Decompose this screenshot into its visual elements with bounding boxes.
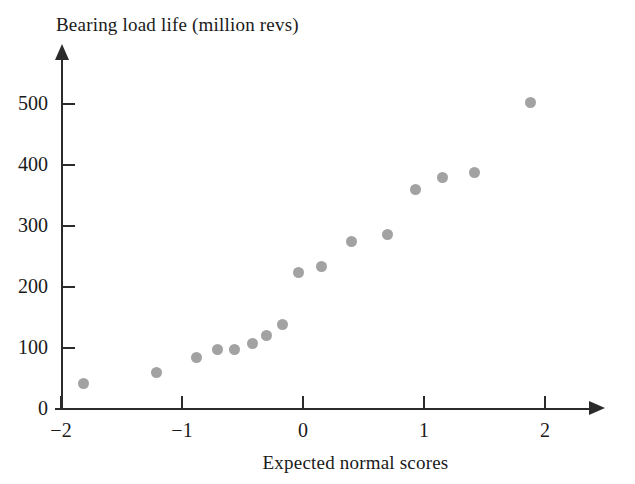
y-tick-mark xyxy=(62,225,75,227)
data-point xyxy=(437,172,448,183)
y-tick-label: 100 xyxy=(0,337,48,357)
y-tick-label: 200 xyxy=(0,276,48,296)
x-tick-mark xyxy=(60,396,62,409)
data-point xyxy=(78,378,89,389)
y-tick-mark xyxy=(55,408,75,410)
data-point xyxy=(212,344,223,355)
x-tick-mark xyxy=(544,396,546,409)
y-tick-mark xyxy=(62,286,75,288)
x-tick-mark xyxy=(302,396,304,409)
y-axis-arrow-icon xyxy=(55,44,69,60)
data-point xyxy=(151,367,162,378)
data-point xyxy=(316,261,327,272)
data-point xyxy=(346,236,357,247)
data-point xyxy=(247,338,258,349)
plot-surface: 0100200300400500 −2−1012 xyxy=(0,0,635,484)
x-tick-mark xyxy=(181,396,183,409)
data-point xyxy=(229,344,240,355)
y-tick-label: 500 xyxy=(0,93,48,113)
y-tick-label: 0 xyxy=(0,398,48,418)
x-axis-line xyxy=(61,408,593,410)
y-tick-mark xyxy=(62,103,75,105)
x-tick-label: −2 xyxy=(39,420,83,440)
data-point xyxy=(410,184,421,195)
y-tick-mark xyxy=(62,164,75,166)
x-axis-title: Expected normal scores xyxy=(0,452,635,474)
data-point xyxy=(261,330,272,341)
y-tick-label: 400 xyxy=(0,154,48,174)
data-point xyxy=(191,352,202,363)
scatter-plot-figure: Bearing load life (million revs) 0100200… xyxy=(0,0,635,484)
x-tick-label: 2 xyxy=(523,420,567,440)
data-point xyxy=(469,167,480,178)
x-axis-title-text: Expected normal scores xyxy=(263,452,449,473)
x-tick-label: 0 xyxy=(281,420,325,440)
y-tick-label: 300 xyxy=(0,215,48,235)
x-tick-label: 1 xyxy=(402,420,446,440)
x-tick-mark xyxy=(423,396,425,409)
data-point xyxy=(293,267,304,278)
data-point xyxy=(382,229,393,240)
data-point xyxy=(525,97,536,108)
x-tick-label: −1 xyxy=(160,420,204,440)
x-axis-arrow-icon xyxy=(589,401,605,415)
y-axis-line xyxy=(61,57,63,410)
data-point xyxy=(277,319,288,330)
y-tick-mark xyxy=(62,347,75,349)
